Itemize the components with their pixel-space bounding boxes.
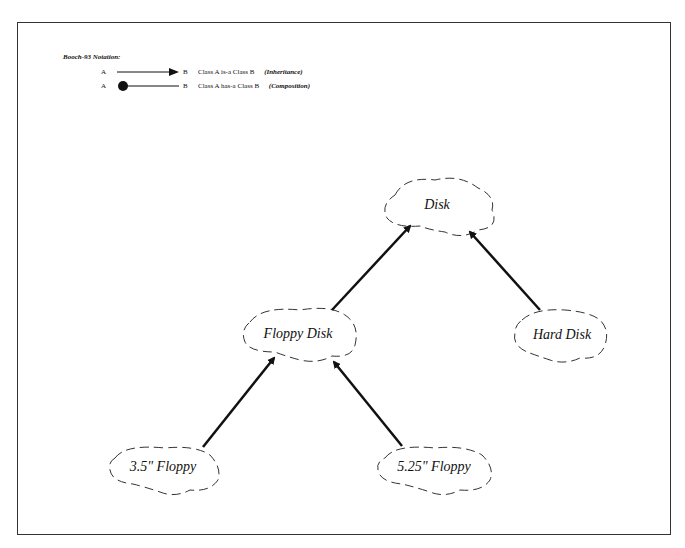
class-diagram bbox=[0, 0, 685, 548]
node-hard-disk: Hard Disk bbox=[533, 327, 591, 343]
edge-floppy-to-disk bbox=[332, 226, 410, 310]
node-floppy-35: 3.5" Floppy bbox=[130, 459, 197, 475]
edge-35-to-floppy bbox=[203, 358, 274, 447]
edge-hard-to-disk bbox=[470, 232, 540, 310]
node-floppy-disk: Floppy Disk bbox=[264, 326, 333, 342]
edge-525-to-floppy bbox=[334, 362, 402, 446]
node-disk: Disk bbox=[424, 197, 450, 213]
node-floppy-525: 5.25" Floppy bbox=[397, 459, 471, 475]
